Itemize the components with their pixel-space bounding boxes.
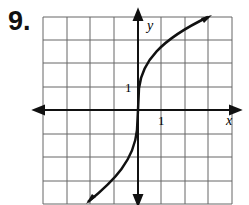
- y-axis-label: y: [145, 18, 154, 33]
- x-tick-label: 1: [158, 113, 165, 128]
- x-axis-label: x: [225, 113, 233, 128]
- graph: y x 1 1: [0, 0, 249, 205]
- y-tick-label: 1: [125, 80, 132, 95]
